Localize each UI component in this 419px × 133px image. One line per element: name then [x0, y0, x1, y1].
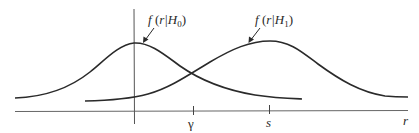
y-axis	[134, 9, 135, 124]
h1-pointer-arrow	[249, 28, 261, 43]
h0-label-close: )	[182, 12, 186, 27]
h1-label-func: f	[255, 12, 259, 27]
h0-label-func: f	[148, 12, 152, 27]
h0-pointer-arrow	[143, 28, 154, 43]
h1-density-curve	[85, 41, 408, 101]
h1-density-label: f (r|H1)	[255, 13, 293, 29]
x-axis-label: r	[403, 114, 408, 127]
h0-density-label: f (r|H0)	[148, 13, 186, 29]
gamma-tick-label: γ	[188, 117, 194, 130]
h1-label-arg: r|H	[266, 12, 284, 27]
h0-label-arg: r|H	[159, 12, 177, 27]
diagram-canvas	[0, 0, 419, 133]
x-axis	[15, 111, 408, 112]
h1-label-close: )	[289, 12, 293, 27]
s-tick-label: s	[266, 116, 271, 129]
